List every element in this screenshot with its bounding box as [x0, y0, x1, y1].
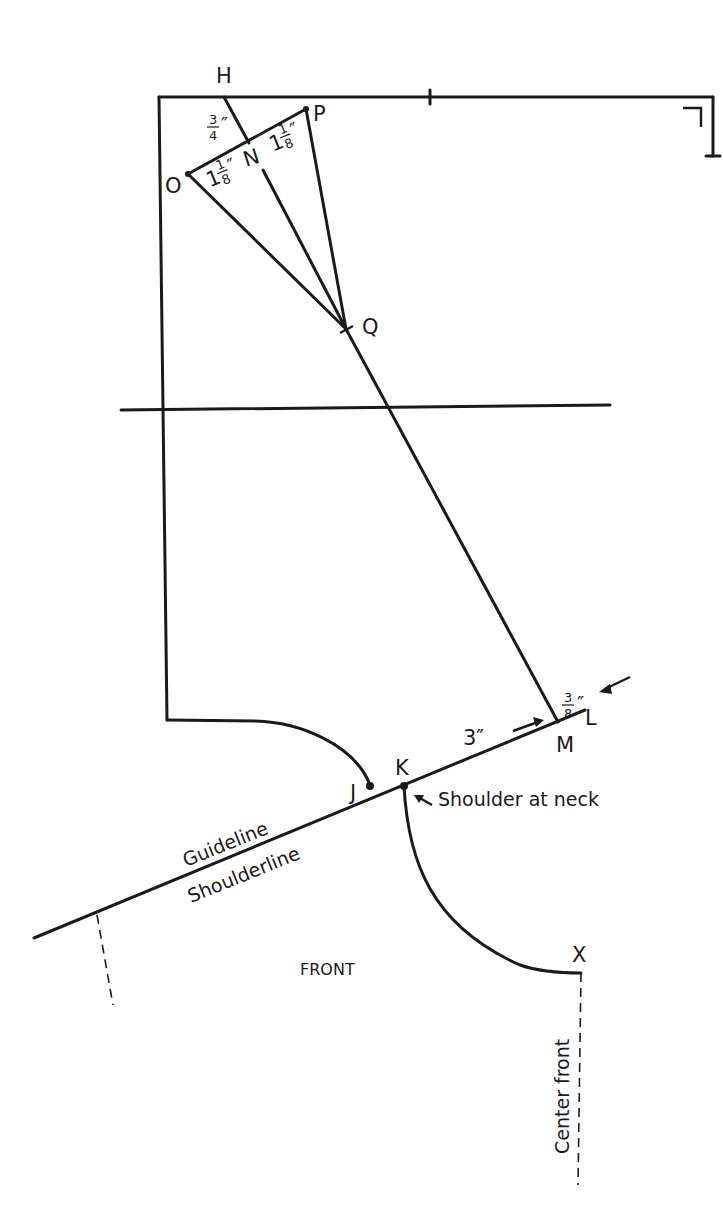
shoulderline — [34, 710, 585, 938]
dart-center-n-q — [263, 170, 346, 329]
svg-text:3: 3 — [564, 690, 572, 705]
neckline-curve — [404, 786, 581, 973]
side-dashed-line — [97, 915, 113, 1005]
point-o-marker — [185, 171, 191, 177]
label-h: H — [216, 64, 232, 88]
label-q: Q — [362, 315, 379, 339]
center-front-label: Center front — [551, 1039, 573, 1154]
label-j: J — [348, 781, 356, 805]
label-p: P — [313, 102, 326, 126]
label-l: L — [585, 706, 597, 730]
right-angle-mark — [683, 108, 701, 127]
measure-3-4in: 3 4 ″ — [207, 112, 228, 143]
label-n: N — [240, 144, 262, 172]
front-label: FRONT — [300, 960, 355, 979]
measure-o-n: 1 1 8 ″ — [200, 152, 241, 193]
label-k: K — [395, 756, 410, 780]
label-m: M — [556, 733, 574, 757]
svg-text:4: 4 — [209, 128, 217, 143]
measure-3in: 3″ — [463, 726, 484, 750]
point-p-marker — [303, 106, 309, 112]
label-x: X — [572, 943, 586, 967]
point-j-marker — [366, 782, 374, 790]
arrow-3-8in-icon — [599, 677, 630, 694]
arrow-shoulder-at-neck-icon — [414, 795, 432, 805]
front-bodice-diagram: H P O N Q L M J K X 3 4 ″ 1 1 8 ″ 1 1 8 … — [0, 0, 723, 1221]
center-front-dashed-line — [578, 973, 581, 1185]
svg-text:8: 8 — [564, 706, 572, 721]
q-m-line — [346, 329, 558, 722]
armhole-curve — [167, 720, 370, 785]
label-o: O — [165, 174, 182, 198]
svg-text:″: ″ — [221, 113, 228, 135]
measure-n-p: 1 1 8 ″ — [263, 117, 304, 158]
svg-text:″: ″ — [577, 692, 584, 714]
shoulder-at-neck-label: Shoulder at neck — [438, 788, 599, 810]
svg-text:3: 3 — [209, 112, 217, 127]
cross-guideline — [121, 405, 610, 410]
